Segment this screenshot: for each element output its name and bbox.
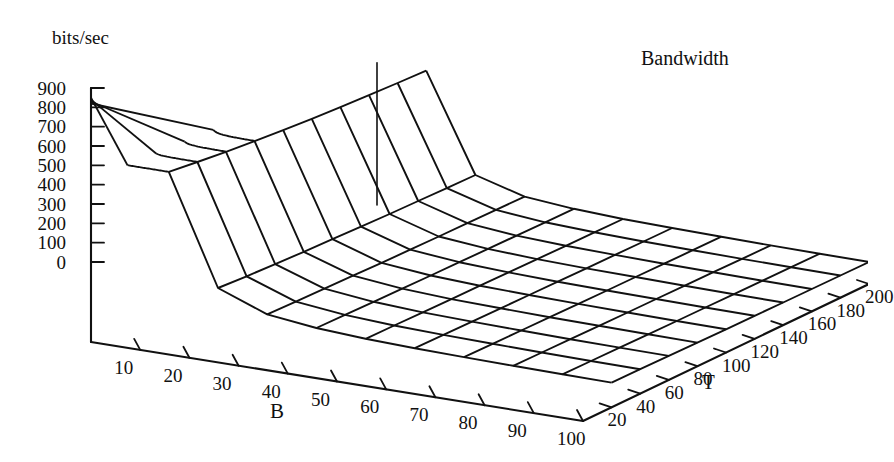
ridge-cap xyxy=(91,104,213,130)
z-tick-label: 400 xyxy=(22,175,66,194)
y-tick-label: 80 xyxy=(693,369,712,388)
y-tick-label: 60 xyxy=(665,383,684,402)
mesh-col xyxy=(366,219,623,339)
x-tick-label: 40 xyxy=(262,382,281,401)
mesh-col xyxy=(415,228,672,348)
mesh-col xyxy=(464,237,721,357)
z-tick-label: 700 xyxy=(22,117,66,136)
chart-title: Bandwidth xyxy=(641,48,729,68)
y-tick xyxy=(857,280,868,284)
mesh-col xyxy=(513,245,770,365)
y-tick xyxy=(685,362,697,366)
y-tick xyxy=(628,390,640,394)
x-tick-label: 70 xyxy=(409,405,428,424)
x-tick-label: 60 xyxy=(360,397,379,416)
y-tick xyxy=(771,321,783,325)
y-tick-label: 120 xyxy=(751,342,780,361)
z-tick-label: 900 xyxy=(22,79,66,98)
y-tick-label: 40 xyxy=(636,397,655,416)
y-tick xyxy=(743,335,755,339)
ridge-curve xyxy=(128,165,169,172)
x-tick-label: 30 xyxy=(213,374,232,393)
y-tick xyxy=(600,403,612,407)
x-tick-label: 100 xyxy=(557,429,586,448)
y-tick-label: 100 xyxy=(722,356,751,375)
z-tick-label: 600 xyxy=(22,137,66,156)
z-tick-label: 800 xyxy=(22,98,66,117)
z-tick-label: 100 xyxy=(22,233,66,252)
mesh-col xyxy=(169,71,426,172)
x-tick-label: 50 xyxy=(311,390,330,409)
ridge-curve xyxy=(185,142,226,152)
ridge-curve xyxy=(156,154,197,162)
x-tick-label: 90 xyxy=(508,421,527,440)
x-tick-label: 10 xyxy=(114,358,133,377)
z-tick-label: 500 xyxy=(22,156,66,175)
mesh-col xyxy=(267,197,524,315)
y-tick-label: 160 xyxy=(808,314,837,333)
x-tick-label: 80 xyxy=(459,413,478,432)
ridge-curve xyxy=(213,130,254,141)
y-tick xyxy=(657,376,669,380)
y-tick-label: 140 xyxy=(779,328,808,347)
mesh-col xyxy=(316,209,573,328)
y-tick-label: 180 xyxy=(836,301,865,320)
z-tick-label: 300 xyxy=(22,195,66,214)
x-axis-name: B xyxy=(270,401,284,422)
y-tick xyxy=(800,307,812,311)
y-tick xyxy=(828,294,840,298)
y-tick-label: 200 xyxy=(865,287,894,306)
z-tick-label: 0 xyxy=(22,253,66,272)
z-axis-caption: bits/sec xyxy=(52,28,109,47)
mesh-row xyxy=(226,152,669,356)
surface-mesh xyxy=(91,71,868,383)
mesh-col xyxy=(218,175,475,288)
y-tick-label: 20 xyxy=(608,410,627,429)
x-tick-label: 20 xyxy=(163,366,182,385)
y-tick xyxy=(714,349,726,353)
mesh-row xyxy=(426,71,868,262)
z-tick-label: 200 xyxy=(22,214,66,233)
